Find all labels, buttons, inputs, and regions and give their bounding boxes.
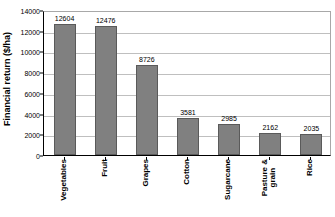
- x-label-slot: Fruit: [84, 157, 125, 217]
- bar-slot: 8726: [126, 12, 167, 155]
- x-tick-label: Pasture &grain: [261, 159, 277, 196]
- x-tick-label: Fruit: [101, 159, 109, 177]
- bar-value-label: 12476: [96, 17, 115, 25]
- bar[interactable]: [177, 118, 199, 155]
- y-tick-label: 4000: [24, 111, 40, 118]
- x-tick-label: Vegetables: [60, 159, 68, 201]
- y-tick-label: 6000: [24, 90, 40, 97]
- bar[interactable]: [259, 133, 281, 155]
- bar-slot: 12476: [85, 12, 126, 155]
- y-tick-label: 14000: [21, 8, 40, 15]
- x-tick-label-line: Rice: [306, 159, 314, 176]
- y-tick-label: 2000: [24, 132, 40, 139]
- bar[interactable]: [54, 24, 76, 155]
- y-axis-tick-labels: 02000400060008000100001200014000: [14, 11, 43, 156]
- bar-value-label: 2162: [262, 124, 278, 132]
- bar-value-label: 8726: [139, 56, 155, 64]
- bar-slot: 2162: [250, 12, 291, 155]
- x-label-slot: Rice: [290, 157, 331, 217]
- x-label-slot: Sugarcane: [208, 157, 249, 217]
- x-label-slot: Grapes: [125, 157, 166, 217]
- x-tick-label: Cotton: [183, 159, 191, 185]
- y-tick-label: 12000: [21, 28, 40, 35]
- x-label-slot: Cotton: [166, 157, 207, 217]
- y-tick-label: 8000: [24, 70, 40, 77]
- y-axis-title: Financial return ($/ha): [0, 0, 14, 158]
- bar-slot: 3581: [167, 12, 208, 155]
- bar-slot: 2035: [291, 12, 332, 155]
- bar[interactable]: [218, 124, 240, 155]
- x-tick-label-line: Sugarcane: [224, 159, 232, 200]
- bar[interactable]: [95, 26, 117, 155]
- y-axis-title-text: Financial return ($/ha): [2, 32, 12, 126]
- bar-value-label: 3581: [180, 109, 196, 117]
- x-tick-label: Grapes: [142, 159, 150, 187]
- bars-layer: 126041247687263581298521622035: [44, 12, 330, 155]
- bar-value-label: 2985: [221, 115, 237, 123]
- x-tick-label-line: Fruit: [101, 159, 109, 177]
- bar[interactable]: [300, 134, 322, 155]
- x-tick-label-line: grain: [269, 159, 277, 196]
- x-tick-label: Sugarcane: [224, 159, 232, 200]
- plot-area: 126041247687263581298521622035: [43, 11, 331, 156]
- y-tick-label: 10000: [21, 49, 40, 56]
- bar-slot: 12604: [44, 12, 85, 155]
- bar-chart: Financial return ($/ha) 0200040006000800…: [0, 0, 335, 217]
- bar-slot: 2985: [209, 12, 250, 155]
- x-label-slot: Pasture &grain: [249, 157, 290, 217]
- x-tick-label-line: Cotton: [183, 159, 191, 185]
- bar-value-label: 2035: [304, 125, 320, 133]
- x-axis-tick-labels: VegetablesFruitGrapesCottonSugarcanePast…: [43, 157, 331, 217]
- bar[interactable]: [136, 65, 158, 155]
- x-tick-label-line: Vegetables: [60, 159, 68, 201]
- x-tick-label-line: Grapes: [142, 159, 150, 187]
- x-label-slot: Vegetables: [43, 157, 84, 217]
- x-tick-label: Rice: [306, 159, 314, 176]
- bar-value-label: 12604: [55, 15, 74, 23]
